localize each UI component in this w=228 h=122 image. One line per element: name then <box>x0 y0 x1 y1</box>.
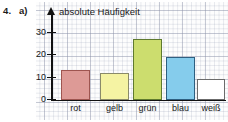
y-tick-label-10: 10 <box>36 72 46 82</box>
y-tick-0 <box>47 99 56 100</box>
y-tick-30 <box>47 32 56 33</box>
y-axis-title: absolute Häufigkeit <box>59 6 140 17</box>
bar-gelb <box>100 73 129 100</box>
x-label-gruen: grün <box>131 103 164 113</box>
bar-rot <box>61 70 90 99</box>
x-label-rot: rot <box>61 103 90 113</box>
y-tick-label-20: 20 <box>36 49 46 59</box>
exercise-figure: 4. a) absolute Häufigkeit 0 10 20 30 rot… <box>0 0 228 122</box>
bar-gruen <box>133 39 162 100</box>
x-label-blau: blau <box>164 103 197 113</box>
bar-blau <box>166 57 195 100</box>
y-axis <box>51 13 53 101</box>
x-axis <box>51 100 226 102</box>
y-tick-label-30: 30 <box>36 27 46 37</box>
x-label-gelb: gelb <box>98 103 131 113</box>
y-tick-20 <box>47 54 56 55</box>
y-tick-10 <box>47 77 56 78</box>
y-tick-label-0: 0 <box>41 94 46 104</box>
bar-weiss <box>197 79 225 99</box>
x-label-weiss: weiß <box>196 103 226 113</box>
bar-chart: absolute Häufigkeit 0 10 20 30 rot gelb … <box>0 0 228 122</box>
